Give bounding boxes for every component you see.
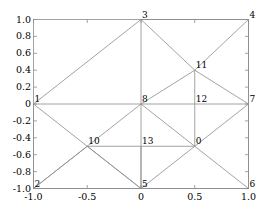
mesh-node-label: 7 — [250, 94, 256, 104]
y-axis-tick-label: 1.0 — [16, 14, 31, 25]
mesh-graph-figure: 1.00.80.60.40.20-0.2-0.4-0.6-0.8-1.0-1.0… — [0, 0, 265, 216]
mesh-edge — [87, 146, 141, 188]
mesh-node-label: 5 — [142, 179, 148, 189]
mesh-edge — [34, 20, 142, 105]
mesh-edge — [195, 104, 249, 146]
y-axis-tick-label: 0.8 — [16, 30, 31, 41]
mesh-node-label: 10 — [88, 136, 99, 146]
x-axis-tick-label: 0 — [121, 191, 161, 202]
mesh-edges — [34, 20, 249, 189]
mesh-node-label: 11 — [196, 60, 207, 70]
mesh-edge — [195, 146, 249, 188]
y-axis-tick-label: 0.6 — [16, 47, 31, 58]
mesh-edge — [141, 20, 195, 71]
y-axis-tick-label: 0 — [25, 98, 31, 109]
y-axis-tick-label: -0.6 — [13, 149, 31, 160]
mesh-edge — [34, 146, 88, 188]
mesh-node-label: 12 — [196, 94, 207, 104]
mesh-edge — [141, 146, 195, 188]
x-axis-tick-label: 0.5 — [175, 191, 215, 202]
mesh-node-label: 13 — [142, 136, 153, 146]
mesh-node-label: 8 — [142, 94, 148, 104]
x-axis-tick-label: 1.0 — [229, 191, 266, 202]
y-axis-tick-label: -0.8 — [13, 166, 31, 177]
y-axis-tick-label: -0.4 — [13, 132, 31, 143]
mesh-node-label: 1 — [35, 94, 41, 104]
x-axis-tick-label: -1.0 — [14, 191, 54, 202]
mesh-node-label: 6 — [250, 179, 256, 189]
y-axis-tick-label: 0.4 — [16, 64, 31, 75]
mesh-node-label: 0 — [196, 136, 202, 146]
mesh-node-label: 4 — [250, 10, 256, 20]
mesh-node-label: 3 — [142, 10, 148, 20]
mesh-edge — [141, 70, 195, 104]
mesh-node-label: 2 — [35, 179, 41, 189]
x-axis-tick-label: -0.5 — [67, 191, 107, 202]
y-axis-tick-label: 0.2 — [16, 81, 31, 92]
y-axis-tick-label: -0.2 — [13, 115, 31, 126]
